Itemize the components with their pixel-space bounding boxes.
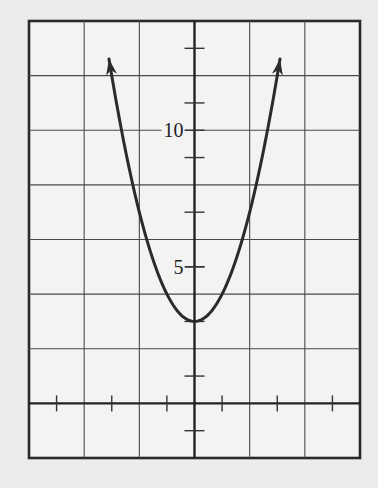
y-tick-label: 5: [174, 256, 184, 278]
parabola-graph: 510: [0, 0, 378, 488]
y-tick-label: 10: [164, 119, 184, 141]
plot-area: 510: [0, 0, 378, 488]
